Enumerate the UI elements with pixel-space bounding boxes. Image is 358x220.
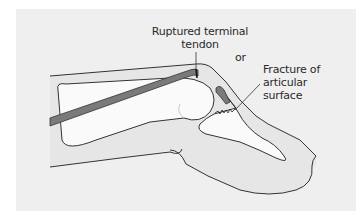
label-fracture: Fracture of articular surface bbox=[263, 63, 333, 102]
label-ruptured-tendon: Ruptured terminal tendon bbox=[150, 25, 250, 51]
label-or: or bbox=[235, 51, 246, 64]
leader-line-fracture bbox=[235, 84, 260, 110]
